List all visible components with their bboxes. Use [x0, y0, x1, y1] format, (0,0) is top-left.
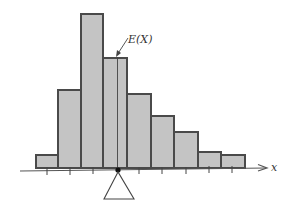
expected-value-label: E(X) — [127, 33, 152, 46]
x-axis-label: x — [271, 161, 278, 174]
bar-5 — [127, 94, 151, 168]
bar-4 — [103, 58, 127, 168]
bar-6 — [151, 116, 174, 168]
bar-7 — [174, 132, 198, 168]
bar-9 — [221, 155, 245, 168]
histogram-diagram: E(X) x — [0, 0, 291, 215]
bar-8 — [198, 152, 221, 168]
bar-1 — [36, 155, 58, 168]
bar-3 — [81, 14, 103, 168]
annotation-arrow-icon — [116, 38, 128, 57]
bar-2 — [58, 90, 81, 168]
fulcrum-triangle-icon — [104, 172, 134, 199]
